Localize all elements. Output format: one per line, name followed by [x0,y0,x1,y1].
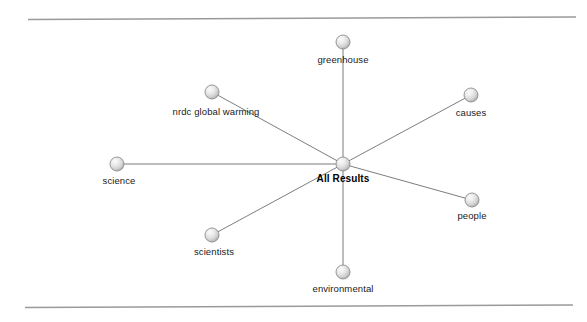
node-label-causes: causes [456,107,487,118]
node-greenhouse[interactable] [335,34,351,50]
node-environmental[interactable] [335,264,351,280]
bottom-rule [25,305,573,308]
node-label-scientists: scientists [194,246,234,257]
node-label-nrdc-global-warming: nrdc global warming [173,106,260,117]
node-label-all-results: All Results [317,173,370,184]
top-rule [28,17,576,20]
edge-all-results-to-nrdc-global-warming [212,92,343,164]
node-scientists[interactable] [204,227,220,243]
node-label-people: people [457,210,486,221]
node-all-results[interactable] [335,156,351,172]
node-label-greenhouse: greenhouse [317,54,368,65]
graph-canvas: All Resultsgreenhousecausespeopleenviron… [0,0,587,322]
node-link-diagram [0,0,587,322]
edge-all-results-to-causes [343,95,471,164]
node-nrdc-global-warming[interactable] [204,84,220,100]
node-label-science: science [103,175,136,186]
node-science[interactable] [109,156,125,172]
node-label-environmental: environmental [313,283,374,294]
nodes-group [110,35,479,279]
node-causes[interactable] [463,87,479,103]
edges-group [117,42,472,272]
horizontal-rules [25,17,576,308]
node-people[interactable] [464,192,480,208]
